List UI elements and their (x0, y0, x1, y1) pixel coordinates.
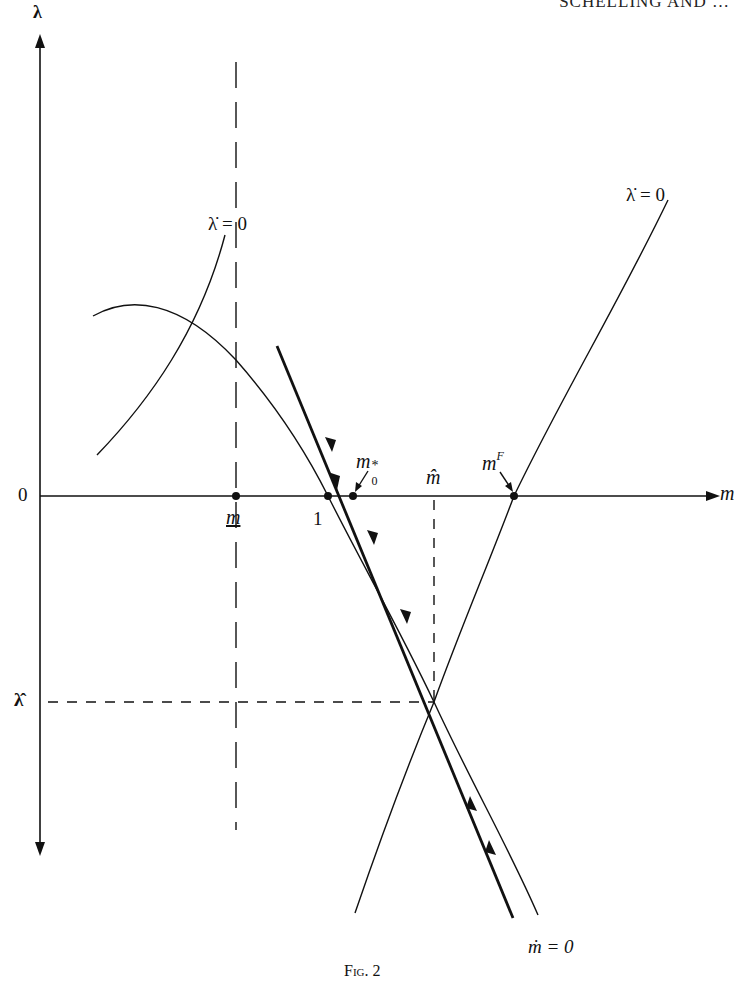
lambda-dot-zero-curve-left (97, 235, 225, 455)
mF-pointer-head (505, 482, 513, 492)
lambda-dot-right-label: λ̇ = 0 (626, 184, 665, 206)
lambda-dot-zero-curve-right (355, 200, 668, 913)
saddle-path-arrow-down-1 (325, 437, 336, 452)
m0-star-label: m*0 (356, 450, 380, 473)
lambda-dot-left-label: λ̇ = 0 (208, 213, 247, 235)
m-dot-label: ṁ = 0 (528, 936, 574, 958)
lambda-hat-label: λ̂ (14, 689, 23, 711)
mF-sup: F (496, 449, 503, 463)
saddle-path-arrow-down-2 (367, 530, 378, 545)
mF-base: m (482, 452, 496, 474)
point-one (324, 492, 332, 500)
lambda-axis-down-arrow (35, 842, 45, 856)
m0-star-base: m (356, 450, 370, 472)
point-m-lower (232, 492, 240, 500)
figure-caption: Fig. 2 (344, 962, 381, 980)
lambda-axis-up-arrow (35, 34, 45, 48)
saddle-path-arrow-down-3 (400, 609, 411, 624)
saddle-path (277, 346, 513, 918)
origin-label: 0 (18, 484, 28, 506)
mF-label: mF (482, 449, 504, 475)
m-axis-arrow (706, 491, 720, 501)
lambda-axis-label: λ (33, 2, 42, 23)
point-mF (510, 492, 518, 500)
point-m0-star (349, 492, 357, 500)
m-hat-label: m̂ (426, 466, 440, 489)
m-dot-zero-curve (93, 305, 538, 915)
m0-star-sup: * (371, 458, 378, 474)
m0-star-sub: 0 (371, 474, 377, 489)
m-axis-label: m (720, 482, 734, 505)
m-lower-label: m (226, 506, 240, 529)
one-label: 1 (313, 508, 323, 530)
